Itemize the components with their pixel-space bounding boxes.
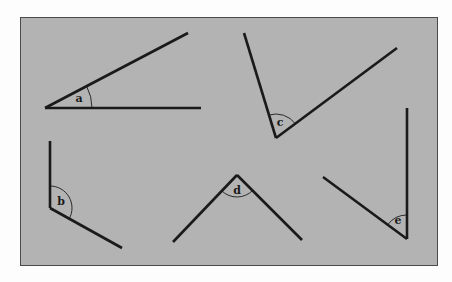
angles-diagram: abcde [0,0,452,282]
angle-d-label: d [233,184,241,197]
angle-b-label: b [57,195,65,208]
angle-c-label: c [277,116,284,129]
angle-d-arm-2 [237,175,302,240]
angle-d: d [173,175,302,242]
angle-e-label: e [395,214,402,227]
angle-c-arm-1 [244,33,276,138]
angle-d-arm-1 [173,175,237,242]
angle-a-arc [87,86,92,108]
angle-e-arm-2 [323,177,407,239]
angle-c: c [244,33,397,138]
angle-b: b [50,141,122,248]
angle-e: e [323,108,407,239]
angle-a-label: a [75,92,82,105]
angle-a-arm-1 [45,33,188,108]
angle-c-arm-2 [276,48,397,138]
angle-b-arm-2 [50,208,122,248]
angle-a: a [45,33,201,108]
